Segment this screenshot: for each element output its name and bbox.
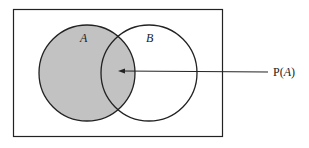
- probability-label: P(A): [273, 65, 295, 79]
- set-a-label: A: [79, 31, 88, 45]
- venn-diagram: A B P(A): [0, 0, 309, 148]
- set-b-label: B: [146, 31, 154, 45]
- pointer-arrow-line: [122, 71, 268, 72]
